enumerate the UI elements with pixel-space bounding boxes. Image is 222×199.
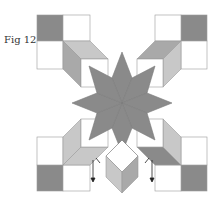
corner-square-dark bbox=[37, 165, 63, 191]
quilt-diagram bbox=[0, 0, 222, 199]
corner-square-dark bbox=[181, 165, 207, 191]
corner-square-dark bbox=[37, 15, 63, 41]
corner-square-dark bbox=[181, 15, 207, 41]
